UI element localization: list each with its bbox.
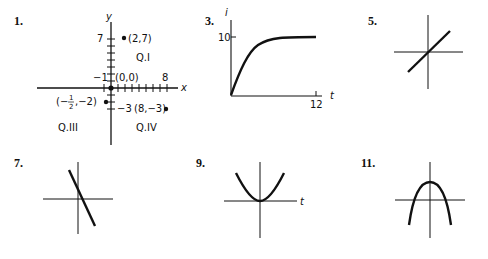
label-point-8-neg3: (8,−3)	[134, 103, 166, 114]
graph-7-line	[69, 170, 95, 226]
graph-1-tick-8: 8	[162, 72, 168, 83]
svg-text:,−2): ,−2)	[75, 96, 97, 107]
graph-9	[224, 162, 297, 238]
graph-3	[231, 20, 322, 96]
graph-3-tick-label-10: 10	[218, 32, 231, 43]
graph-11	[395, 162, 465, 238]
figure-canvas: y x 7 −1 8 −3 (2,7) (0,0) (8,−3) (− 1 2 …	[0, 0, 488, 259]
svg-text:1: 1	[69, 94, 73, 102]
label-point-neg-half-neg2: (− 1 2 ,−2)	[56, 94, 97, 111]
label-point-2-7: (2,7)	[128, 33, 152, 44]
graph-1-tick-neg3: −3	[117, 103, 132, 114]
graph-3-tick-label-12: 12	[310, 99, 323, 110]
quadrant-4-label: Q.IV	[136, 122, 157, 133]
graph-1-y-label: y	[105, 11, 113, 22]
graph-1-tick-neg1: −1	[93, 72, 108, 83]
graph-7	[43, 162, 113, 234]
svg-text:2: 2	[69, 103, 73, 111]
graph-1-x-label: x	[180, 82, 187, 93]
point-neg-half-neg-2	[104, 100, 108, 104]
graph-3-x-label: t	[330, 90, 335, 101]
graph-3-y-label: i	[225, 7, 228, 18]
point-origin	[108, 85, 113, 90]
graph-3-curve	[231, 37, 316, 95]
point-2-7	[122, 36, 126, 40]
quadrant-3-label: Q.III	[58, 122, 78, 133]
quadrant-1-label: Q.I	[136, 52, 150, 63]
graph-5	[394, 15, 463, 89]
graph-9-x-label: t	[300, 196, 305, 207]
label-point-origin: (0,0)	[115, 72, 139, 83]
graph-1-tick-7: 7	[97, 33, 103, 44]
svg-text:(−: (−	[56, 96, 68, 107]
